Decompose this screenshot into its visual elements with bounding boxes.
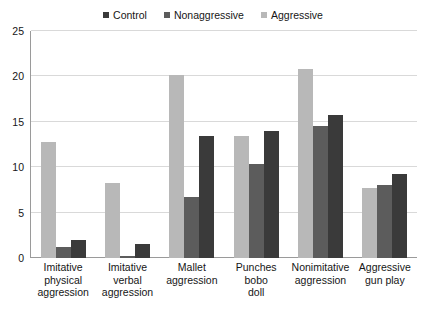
bar-control — [71, 240, 86, 258]
bar-aggressive — [234, 136, 249, 258]
chart-legend: ControlNonaggressiveAggressive — [0, 9, 426, 21]
legend-item-nonaggressive[interactable]: Nonaggressive — [164, 9, 244, 21]
x-axis-tick-labels: ImitativephysicalaggressionImitativeverb… — [31, 261, 417, 299]
bar-aggressive — [105, 183, 120, 258]
bar-control — [392, 174, 407, 258]
x-tick-label-line: aggression — [161, 274, 223, 287]
y-tick-label: 20 — [12, 70, 24, 82]
x-tick-label-line: Imitative — [96, 261, 158, 274]
x-tick-label: Imitativeverbalaggression — [95, 261, 159, 299]
bar-aggressive — [298, 69, 313, 258]
x-tick-label-line: physical — [32, 274, 94, 287]
legend-label: Control — [113, 9, 147, 21]
y-tick-label: 15 — [12, 116, 24, 128]
bar-group — [95, 31, 159, 258]
bar-nonaggressive — [313, 126, 328, 258]
bar-aggressive — [362, 188, 377, 258]
x-tick-label-line: doll — [225, 286, 287, 299]
x-tick-label-line: Punches — [225, 261, 287, 274]
x-tick-label: Aggressivegun play — [353, 261, 417, 299]
x-tick-label: Punchesbobodoll — [224, 261, 288, 299]
x-tick-label-line: Aggressive — [354, 261, 416, 274]
bar-group — [160, 31, 224, 258]
bar-control — [328, 115, 343, 258]
y-tick-label: 5 — [18, 207, 24, 219]
x-tick-label-line: aggression — [289, 274, 351, 287]
bar-nonaggressive — [377, 185, 392, 258]
legend-label: Aggressive — [271, 9, 323, 21]
bar-chart: ControlNonaggressiveAggressive 051015202… — [0, 0, 426, 310]
x-tick-label: Imitativephysicalaggression — [31, 261, 95, 299]
bar-nonaggressive — [249, 164, 264, 258]
x-tick-label-line: Imitative — [32, 261, 94, 274]
y-tick-label: 0 — [18, 252, 24, 264]
y-tick-label: 10 — [12, 161, 24, 173]
legend-swatch-icon — [261, 12, 267, 18]
x-tick-label-line: Nonimitative — [289, 261, 351, 274]
bar-group — [353, 31, 417, 258]
x-tick-label-line: bobo — [225, 274, 287, 287]
bar-control — [135, 244, 150, 258]
bar-control — [199, 136, 214, 258]
bar-group — [31, 31, 95, 258]
legend-item-aggressive[interactable]: Aggressive — [261, 9, 323, 21]
bar-nonaggressive — [120, 256, 135, 258]
x-tick-label-line: gun play — [354, 274, 416, 287]
x-tick-label-line: Mallet — [161, 261, 223, 274]
bars-layer — [31, 31, 417, 258]
bar-nonaggressive — [184, 197, 199, 258]
legend-swatch-icon — [164, 12, 170, 18]
bar-aggressive — [41, 142, 56, 258]
y-axis-tick-labels: 0510152025 — [0, 31, 28, 258]
bar-nonaggressive — [56, 247, 71, 258]
legend-swatch-icon — [103, 12, 109, 18]
x-tick-label-line: aggression — [96, 286, 158, 299]
bar-group — [224, 31, 288, 258]
x-tick-label-line: aggression — [32, 286, 94, 299]
x-tick-label: Malletaggression — [160, 261, 224, 299]
x-tick-label: Nonimitativeaggression — [288, 261, 352, 299]
bar-group — [288, 31, 352, 258]
legend-label: Nonaggressive — [174, 9, 244, 21]
bar-control — [264, 131, 279, 258]
y-tick-label: 25 — [12, 25, 24, 37]
x-tick-label-line: verbal — [96, 274, 158, 287]
legend-item-control[interactable]: Control — [103, 9, 147, 21]
bar-aggressive — [169, 75, 184, 258]
